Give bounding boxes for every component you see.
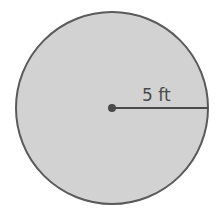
center-point [108,104,116,112]
circle-diagram: 5 ft [0,0,219,222]
radius-label: 5 ft [142,85,171,105]
